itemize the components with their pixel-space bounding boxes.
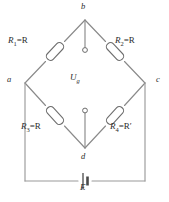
circuit-schematic-svg: [0, 0, 169, 202]
wheatstone-bridge-figure: b a c d R1=R R2=R R3=R R4=R′ Ug E: [0, 0, 169, 202]
wire-r4-to-d: [85, 126, 106, 148]
resistor-label-r1-value: =R: [17, 35, 28, 45]
wire-a-to-r1: [25, 62, 46, 84]
galvanometer-terminal-lower: [83, 108, 88, 113]
wire-r2-to-c: [125, 62, 146, 84]
wire-r3-to-d: [65, 126, 86, 148]
node-label-b: b: [81, 2, 85, 11]
resistor-label-r2: R2=R: [115, 36, 135, 47]
node-label-a: a: [7, 75, 11, 84]
galvanometer-label-subscript: g: [77, 77, 80, 84]
resistor-label-r1: R1=R: [8, 36, 28, 47]
galvanometer-terminal-upper: [83, 48, 88, 53]
node-label-c: c: [156, 75, 160, 84]
resistor-r3: [45, 105, 65, 126]
wire-r1-to-b: [65, 20, 86, 42]
battery-label: E: [80, 183, 86, 192]
resistor-label-r4: R4=R′: [110, 122, 132, 133]
galvanometer-label: Ug: [70, 73, 80, 84]
wire-b-to-r2: [85, 20, 106, 42]
resistor-r1: [45, 41, 65, 62]
resistor-label-r3: R3=R: [21, 122, 41, 133]
wire-a-to-r3: [25, 83, 46, 106]
resistor-label-r4-value: =R′: [119, 121, 132, 131]
node-label-d: d: [81, 152, 85, 161]
wire-c-to-r4: [125, 83, 146, 106]
resistor-label-r3-value: =R: [30, 121, 41, 131]
resistor-label-r2-value: =R: [124, 35, 135, 45]
